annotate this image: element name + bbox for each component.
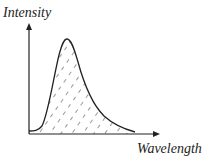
x-axis-label: Wavelength xyxy=(137,141,202,156)
y-axis-arrow-icon xyxy=(26,23,32,30)
x-axis-arrow-icon xyxy=(153,131,160,137)
intensity-wavelength-diagram: Intensity Wavelength xyxy=(0,0,212,161)
y-axis-label: Intensity xyxy=(2,5,52,20)
